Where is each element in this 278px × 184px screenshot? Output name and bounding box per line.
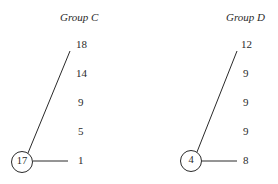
group-c-diagonal-line [28,51,70,153]
group-d-value: 9 [243,125,249,137]
group-c-title: Group C [60,11,98,23]
group-c-node-label: 17 [10,155,34,166]
group-c-value: 1 [78,154,84,166]
diagram-lines [0,0,278,184]
group-c-value: 14 [76,67,87,79]
group-d-node-label: 4 [179,154,203,165]
group-c-value: 5 [78,125,84,137]
group-d-diagonal-line [197,51,237,152]
group-c-value: 9 [78,96,84,108]
group-c-value: 18 [76,38,87,50]
group-d-value: 9 [243,96,249,108]
group-d-title: Group D [226,11,265,23]
group-d-value: 8 [243,154,249,166]
group-d-value: 12 [241,38,252,50]
group-d-value: 9 [243,67,249,79]
